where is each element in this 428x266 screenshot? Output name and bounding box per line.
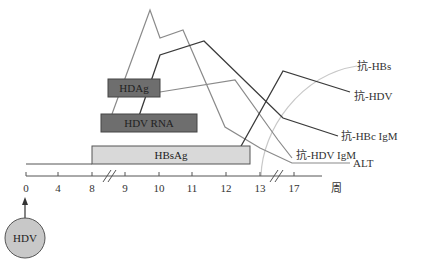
anti-hdv-igm-label: 抗-HDV IgM	[296, 148, 356, 161]
hdv-rna-label: HDV RNA	[124, 117, 174, 129]
hdv-virus-label: HDV	[13, 232, 37, 244]
tick-label: 0	[23, 182, 29, 194]
x-axis-ticks	[26, 172, 294, 176]
arrow-head-icon	[22, 197, 28, 205]
x-axis-unit: 周	[331, 182, 342, 194]
hbsag-label: HBsAg	[154, 149, 188, 161]
hdv-infection-diagram: HBsAg HDV RNA HDAg 抗-HBs 抗-HDV 抗-HBc IgM…	[0, 0, 428, 266]
hdag-label: HDAg	[119, 82, 149, 94]
tick-label: 12	[221, 182, 232, 194]
tick-label: 13	[255, 182, 267, 194]
tick-label: 11	[187, 182, 198, 194]
anti-hbs-label: 抗-HBs	[357, 59, 391, 72]
tick-label: 17	[289, 182, 301, 194]
tick-label: 8	[89, 182, 95, 194]
alt-label: ALT	[353, 157, 374, 169]
anti-hdv-label: 抗-HDV	[354, 89, 393, 102]
tick-label: 10	[154, 182, 166, 194]
tick-label: 4	[55, 182, 61, 194]
tick-label: 9	[122, 182, 128, 194]
anti-hbc-igm-label: 抗-HBc IgM	[341, 129, 398, 142]
